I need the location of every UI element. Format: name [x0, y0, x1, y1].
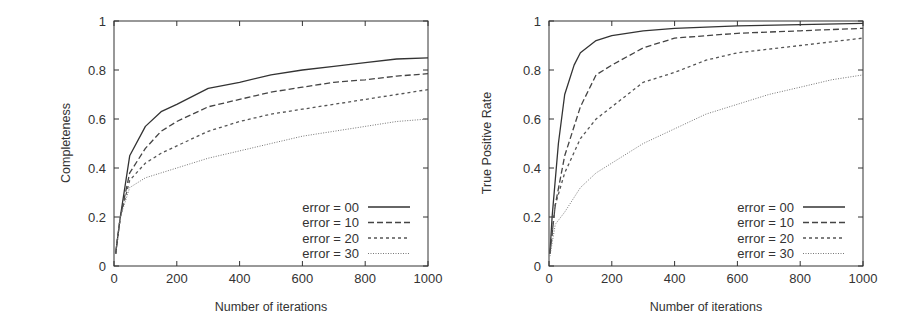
- legend-label: error = 00: [737, 200, 794, 215]
- y-tick-label: 0.4: [523, 161, 541, 176]
- x-tick-label: 1000: [414, 271, 443, 286]
- x-tick-label: 200: [601, 271, 623, 286]
- plot-frame: [114, 21, 428, 266]
- y-axis-label: True Positive Rate: [480, 92, 494, 194]
- legend-label: error = 30: [737, 246, 794, 261]
- y-tick-label: 0.6: [88, 112, 106, 127]
- y-tick-label: 0.2: [88, 210, 106, 225]
- y-tick-label: 1: [534, 14, 541, 29]
- series-line-error-10: [116, 74, 428, 254]
- y-tick-label: 0.4: [88, 161, 106, 176]
- x-axis-label: Number of iterations: [215, 300, 328, 314]
- x-axis-label: Number of iterations: [650, 300, 763, 314]
- x-tick-label: 800: [354, 271, 376, 286]
- series-line-error-00: [116, 58, 428, 254]
- y-tick-label: 0.6: [523, 112, 541, 127]
- legend-label: error = 20: [302, 231, 359, 246]
- legend-label: error = 10: [302, 215, 359, 230]
- true-positive-rate-chart: 0200400600800100000.20.40.60.81Number of…: [460, 0, 922, 326]
- x-tick-label: 400: [229, 271, 251, 286]
- plot-frame: [549, 21, 863, 266]
- x-tick-label: 600: [727, 271, 749, 286]
- completeness-chart: 0200400600800100000.20.40.60.81Number of…: [0, 0, 460, 326]
- y-tick-label: 0: [99, 259, 106, 274]
- y-axis-label: Completeness: [59, 103, 73, 183]
- y-tick-label: 0.8: [523, 63, 541, 78]
- legend-label: error = 20: [737, 231, 794, 246]
- series-line-error-20: [550, 38, 863, 254]
- series-line-error-30: [550, 75, 863, 256]
- y-tick-label: 0: [534, 259, 541, 274]
- legend-label: error = 30: [302, 246, 359, 261]
- series-line-error-20: [116, 90, 428, 254]
- completeness-plot: 0200400600800100000.20.40.60.81Number of…: [0, 0, 460, 326]
- x-tick-label: 200: [166, 271, 188, 286]
- x-tick-label: 0: [110, 271, 117, 286]
- legend-label: error = 00: [302, 200, 359, 215]
- series-line-error-00: [550, 23, 863, 253]
- y-tick-label: 1: [99, 14, 106, 29]
- series-line-error-30: [116, 119, 428, 254]
- x-tick-label: 600: [292, 271, 314, 286]
- x-tick-label: 1000: [849, 271, 878, 286]
- x-tick-label: 400: [664, 271, 686, 286]
- y-tick-label: 0.8: [88, 63, 106, 78]
- series-line-error-10: [550, 28, 863, 254]
- y-tick-label: 0.2: [523, 210, 541, 225]
- legend-label: error = 10: [737, 215, 794, 230]
- x-tick-label: 0: [545, 271, 552, 286]
- x-tick-label: 800: [789, 271, 811, 286]
- true-positive-rate-plot: 0200400600800100000.20.40.60.81Number of…: [460, 0, 922, 326]
